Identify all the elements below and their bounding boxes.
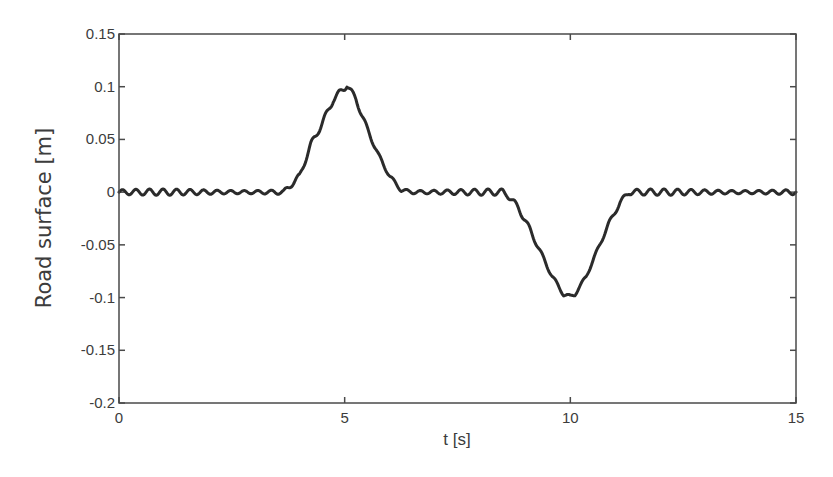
tick-labels: 0510150.150.10.050-0.05-0.1-0.15-0.2 [81,25,805,426]
y-tick-label: -0.2 [89,394,115,411]
y-tick-label: 0 [107,183,115,200]
y-tick-label: 0.05 [86,130,115,147]
x-tick-label: 5 [340,409,348,426]
y-tick-label: 0.15 [86,25,115,42]
y-tick-label: -0.1 [89,289,115,306]
axis-ticks [119,34,796,403]
road-surface-chart: 0510150.150.10.050-0.05-0.1-0.15-0.2 t [… [0,0,833,477]
x-tick-label: 10 [562,409,579,426]
x-tick-label: 15 [788,409,805,426]
x-tick-label: 0 [115,409,123,426]
road-surface-line [119,87,796,296]
y-tick-label: 0.1 [94,78,115,95]
y-tick-label: -0.05 [81,236,115,253]
x-axis-label: t [s] [443,430,470,449]
y-tick-label: -0.15 [81,341,115,358]
y-axis-label: Road surface [m] [32,128,56,309]
axes-frame [119,34,796,403]
